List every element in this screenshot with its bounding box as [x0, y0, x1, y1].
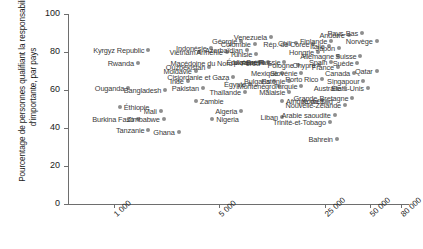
y-tick-label: 100 — [20, 8, 60, 18]
data-point-label: Trinité-et-Tobago — [273, 118, 326, 127]
x-tick — [114, 204, 115, 208]
data-point — [159, 109, 163, 113]
data-point-label: Ouganda — [95, 84, 124, 93]
data-point — [361, 79, 365, 83]
data-point — [239, 109, 243, 113]
data-point — [280, 99, 284, 103]
data-point-label: Ghana — [153, 127, 174, 136]
data-point-label: Rwanda — [108, 59, 134, 68]
data-point-label: Zimbabwe — [127, 114, 160, 123]
data-point — [360, 31, 364, 35]
y-tick-label: 80 — [20, 46, 60, 56]
data-point — [254, 52, 258, 56]
data-point — [269, 35, 273, 39]
data-point-label: Bangladesh — [124, 86, 162, 95]
y-tick-label: 60 — [20, 84, 60, 94]
data-point — [337, 46, 341, 50]
data-point — [136, 61, 140, 65]
data-point-label: Koweït — [302, 97, 324, 106]
data-point-label: Algeria — [215, 106, 237, 115]
data-point-label: Venezuela — [234, 32, 267, 41]
data-point — [375, 39, 379, 43]
data-point — [335, 137, 339, 141]
data-point-label: Suède — [333, 59, 354, 68]
data-point-label: Kyrgyz Republic — [93, 46, 144, 55]
data-point — [328, 120, 332, 124]
y-tick-label: 40 — [20, 122, 60, 132]
data-point — [162, 117, 166, 121]
data-point-label: Macédoine du Nord — [170, 59, 232, 68]
data-point-label: Porto Rico — [285, 74, 318, 83]
y-tick-label: 0 — [20, 198, 60, 208]
data-point — [320, 77, 324, 81]
data-point — [355, 61, 359, 65]
data-point — [350, 96, 354, 100]
plot-area: Kyrgyz RepublicRwandaOugandaBangladeshÉt… — [68, 14, 409, 204]
data-point — [201, 86, 205, 90]
data-point — [194, 99, 198, 103]
data-point — [177, 130, 181, 134]
data-point-label: Qatar — [355, 67, 373, 76]
data-point — [253, 42, 257, 46]
data-point-label: Australie — [314, 84, 341, 93]
data-point-label: Cisjordanie et Gaza — [167, 72, 229, 81]
data-point-label: Zambie — [200, 97, 224, 106]
y-tick-label: 20 — [20, 160, 60, 170]
data-point — [358, 54, 362, 58]
data-point — [146, 48, 150, 52]
y-tick — [64, 204, 68, 205]
data-point — [231, 75, 235, 79]
data-point — [366, 86, 370, 90]
data-point — [118, 105, 122, 109]
data-point-label: Thaïlande — [209, 87, 241, 96]
data-point-label: Bahrein — [308, 135, 332, 144]
data-point — [333, 113, 337, 117]
data-point — [375, 69, 379, 73]
data-point — [343, 103, 347, 107]
data-point-label: Tanzanie — [116, 125, 144, 134]
x-tick — [325, 204, 326, 208]
data-point — [287, 90, 291, 94]
data-point — [299, 84, 303, 88]
data-point-label: Malaisie — [259, 87, 285, 96]
data-point — [210, 117, 214, 121]
data-point — [163, 88, 167, 92]
data-point-label: Norvège — [346, 36, 373, 45]
data-point — [146, 128, 150, 132]
data-point-label: Pakistan — [172, 84, 199, 93]
